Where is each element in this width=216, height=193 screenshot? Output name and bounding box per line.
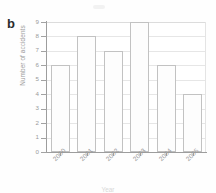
- y-tick-label-wrap: 2: [28, 120, 39, 127]
- plot-background: [47, 22, 206, 152]
- right-spine: [205, 22, 206, 152]
- y-tick: [41, 138, 47, 139]
- y-tick: [41, 22, 47, 23]
- bar: [157, 65, 176, 152]
- y-tick-label: 9: [28, 19, 39, 25]
- y-axis-line: [46, 21, 47, 153]
- y-tick-label: 4: [28, 91, 39, 97]
- y-tick-label: 6: [28, 62, 39, 68]
- y-tick-label: 7: [28, 47, 39, 53]
- bar: [183, 94, 202, 152]
- y-tick: [41, 80, 47, 81]
- y-tick-label: 1: [28, 134, 39, 140]
- gridline: [47, 36, 206, 37]
- y-tick-label-wrap: 1: [28, 134, 39, 141]
- y-tick: [41, 152, 47, 153]
- y-tick-label: 2: [28, 120, 39, 126]
- y-tick-label-wrap: 9: [28, 19, 39, 26]
- x-axis-line: [43, 152, 207, 153]
- figure-panel: b Number of accidents 0123456789 2000200…: [0, 0, 216, 193]
- gridline: [47, 22, 206, 23]
- gridline: [47, 94, 206, 95]
- scan-artifact: [93, 5, 105, 9]
- y-tick-label-wrap: 4: [28, 91, 39, 98]
- y-tick-label: 8: [28, 33, 39, 39]
- gridline: [47, 51, 206, 52]
- gridline: [47, 80, 206, 81]
- y-axis-title: Number of accidents: [19, 18, 26, 94]
- y-tick-label-wrap: 8: [28, 33, 39, 40]
- bar: [77, 36, 96, 152]
- y-tick-label-wrap: 5: [28, 76, 39, 83]
- gridline: [47, 109, 206, 110]
- bar: [130, 22, 149, 152]
- y-tick-label-wrap: 0: [28, 149, 39, 156]
- plot-area: [47, 22, 206, 152]
- y-tick: [41, 123, 47, 124]
- gridline: [47, 123, 206, 124]
- y-tick-label: 5: [28, 76, 39, 82]
- y-tick-label: 3: [28, 105, 39, 111]
- y-tick: [41, 36, 47, 37]
- panel-label: b: [7, 17, 15, 30]
- y-tick: [41, 65, 47, 66]
- gridline: [47, 138, 206, 139]
- y-tick: [41, 51, 47, 52]
- x-axis-title: Year: [0, 186, 216, 193]
- y-tick-label: 0: [28, 149, 39, 155]
- y-tick: [41, 94, 47, 95]
- y-tick: [41, 109, 47, 110]
- y-tick-label-wrap: 6: [28, 62, 39, 69]
- bar: [51, 65, 70, 152]
- y-tick-label-wrap: 7: [28, 47, 39, 54]
- gridline: [47, 65, 206, 66]
- bar: [104, 51, 123, 152]
- y-tick-label-wrap: 3: [28, 105, 39, 112]
